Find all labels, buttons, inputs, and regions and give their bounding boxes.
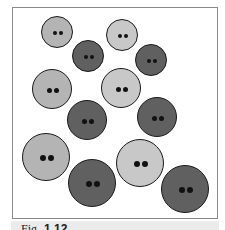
button-hole-icon [153, 59, 157, 63]
button-hole-icon [134, 161, 140, 167]
button-circle-lighter [116, 139, 164, 187]
button-circle-dark [68, 159, 116, 207]
button-hole-icon [47, 88, 52, 93]
button-circle-dark [137, 97, 177, 137]
button-hole-icon [179, 187, 185, 193]
button-hole-icon [123, 87, 128, 92]
button-circle-dark [72, 40, 104, 72]
button-circle-dark [67, 100, 107, 140]
button-hole-icon [59, 31, 63, 35]
button-hole-icon [152, 116, 157, 121]
button-hole-icon [89, 119, 94, 124]
figure-caption: Fig.1.12 [21, 222, 67, 230]
button-hole-icon [159, 116, 164, 121]
caption-number: 1.12 [44, 222, 67, 230]
button-hole-icon [147, 59, 151, 63]
caption-strip: Fig.1.12 [11, 221, 219, 230]
button-circle-light [41, 16, 73, 48]
button-hole-icon [90, 55, 94, 59]
button-circle-lighter [106, 19, 138, 51]
button-circle-dark [135, 44, 167, 76]
button-hole-icon [84, 55, 88, 59]
button-hole-icon [54, 88, 59, 93]
button-circle-lighter [101, 68, 141, 108]
button-hole-icon [82, 119, 87, 124]
button-hole-icon [53, 31, 57, 35]
button-hole-icon [48, 155, 54, 161]
button-hole-icon [142, 161, 148, 167]
button-hole-icon [116, 87, 121, 92]
button-hole-icon [124, 34, 128, 38]
button-circle-light [22, 133, 70, 181]
button-hole-icon [40, 155, 46, 161]
caption-prefix: Fig. [21, 222, 40, 230]
button-hole-icon [94, 181, 100, 187]
button-hole-icon [118, 34, 122, 38]
button-hole-icon [187, 187, 193, 193]
button-circle-dark [161, 165, 209, 213]
button-circle-light [32, 69, 72, 109]
button-hole-icon [86, 181, 92, 187]
